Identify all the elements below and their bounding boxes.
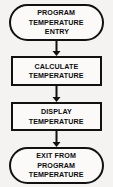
- flowchart-node-calculate-temperature: CALCULATE TEMPERATURE: [11, 56, 102, 86]
- node-label-line: TEMPERATURE: [29, 170, 84, 179]
- node-label-line: TEMPERATURE: [29, 18, 84, 27]
- node-label-line: TEMPERATURE: [29, 71, 84, 80]
- node-label-line: PROGRAM: [38, 8, 76, 17]
- flowchart-arrow-calculate-to-display: [51, 86, 62, 102]
- flowchart-arrow-entry-to-calculate: [51, 41, 62, 56]
- flowchart-node-program-temperature-entry: PROGRAM TEMPERATURE ENTRY: [9, 4, 104, 41]
- flowchart-node-exit-from-program-temperature: EXIT FROM PROGRAM TEMPERATURE: [9, 147, 104, 184]
- node-label-line: ENTRY: [44, 27, 68, 36]
- node-label-line: CALCULATE: [35, 62, 79, 71]
- arrow-stem: [56, 41, 58, 51]
- node-label-line: PROGRAM: [38, 161, 76, 170]
- arrow-stem: [56, 86, 58, 97]
- node-label-line: TEMPERATURE: [29, 117, 84, 126]
- node-label-line: EXIT FROM: [37, 151, 77, 160]
- node-label-line: DISPLAY: [41, 107, 72, 116]
- flowchart-node-display-temperature: DISPLAY TEMPERATURE: [11, 102, 102, 131]
- flowchart-arrow-display-to-exit: [51, 131, 62, 147]
- arrow-stem: [56, 131, 58, 142]
- flowchart-diagram: PROGRAM TEMPERATURE ENTRY CALCULATE TEMP…: [0, 0, 113, 187]
